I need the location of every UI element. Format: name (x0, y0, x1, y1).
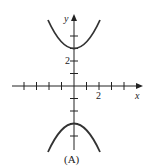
y-axis-label: y (63, 13, 69, 24)
x-axis-arrow-icon (136, 83, 143, 89)
x-axis-label: x (134, 90, 140, 101)
y-tick-label-2: 2 (65, 55, 70, 66)
figure-caption: (A) (64, 153, 80, 166)
hyperbola-graph: y x 2 2 (A) (0, 0, 147, 168)
y-axis-arrow-icon (71, 14, 77, 21)
x-tick-label-2: 2 (96, 90, 101, 101)
